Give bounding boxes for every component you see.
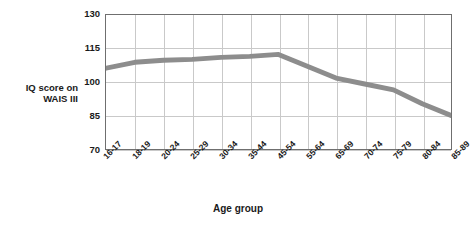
y-axis-title: IQ score on WAIS III — [6, 82, 78, 104]
data-series-line — [106, 15, 451, 149]
y-tick-label-130: 130 — [70, 8, 100, 19]
x-axis-title: Age group — [0, 203, 476, 214]
y-tick-label-70: 70 — [70, 144, 100, 155]
y-tick-label-100: 100 — [70, 76, 100, 87]
x-tick-label-12: 85-89 — [449, 139, 471, 161]
y-tick-label-85: 85 — [70, 110, 100, 121]
y-axis-title-line-2: WAIS III — [6, 93, 78, 104]
y-tick-label-115: 115 — [70, 42, 100, 53]
iq-by-age-line-chart: IQ score on WAIS III 130 115 100 85 70 1… — [0, 0, 476, 231]
y-axis-title-line-1: IQ score on — [6, 82, 78, 93]
plot-area — [105, 14, 452, 150]
